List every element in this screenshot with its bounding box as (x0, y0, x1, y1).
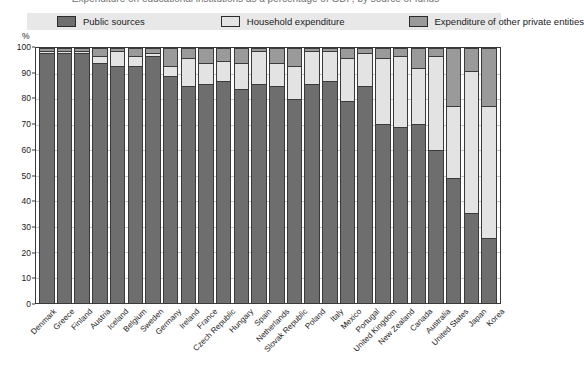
y-axis-tick-mark (32, 149, 35, 150)
legend-swatch-household-icon (221, 16, 240, 27)
bar-united-kingdom[interactable] (375, 48, 391, 303)
bar-segment-household (429, 57, 443, 151)
bar-group (36, 48, 500, 303)
bar-segment-household (482, 107, 496, 239)
bar-segment-public (182, 87, 196, 303)
x-axis-label-korea: Korea (485, 307, 506, 328)
bar-denmark[interactable] (39, 48, 55, 303)
bar-segment-other (217, 49, 231, 62)
bar-iceland[interactable] (110, 48, 126, 303)
y-axis-tick-mark (32, 252, 35, 253)
y-axis-tick-label: 70 (22, 119, 31, 129)
bar-poland[interactable] (304, 48, 320, 303)
bar-germany[interactable] (163, 48, 179, 303)
bar-segment-other (376, 49, 390, 59)
legend-item-household[interactable]: Household expenditure (221, 16, 345, 27)
bar-segment-household (305, 52, 319, 85)
bar-japan[interactable] (464, 48, 480, 303)
y-axis-tick-label: 0 (26, 299, 31, 309)
y-axis-tick-label: 50 (22, 171, 31, 181)
y-axis-tick-label: 20 (22, 248, 31, 258)
y-axis-tick-mark (32, 226, 35, 227)
chart-title-strip: Expenditure on educational institutions … (0, 0, 511, 11)
bar-segment-household (235, 64, 249, 89)
bar-hungary[interactable] (234, 48, 250, 303)
legend-swatch-other-icon (409, 16, 428, 27)
bar-ireland[interactable] (181, 48, 197, 303)
bar-segment-other (465, 49, 479, 72)
bar-segment-household (288, 67, 302, 100)
bar-segment-public (270, 87, 284, 303)
bar-segment-household (164, 67, 178, 77)
bar-italy[interactable] (322, 48, 338, 303)
y-axis-tick-mark (32, 98, 35, 99)
bar-segment-public (394, 128, 408, 303)
bar-segment-household (217, 62, 231, 82)
bar-korea[interactable] (481, 48, 497, 303)
bar-segment-public (288, 100, 302, 303)
bar-sweden[interactable] (145, 48, 161, 303)
x-axis-labels: DenmarkGreeceFinlandAustriaIcelandBelgiu… (35, 305, 501, 377)
bar-segment-public (40, 54, 54, 303)
legend-item-public[interactable]: Public sources (57, 16, 145, 27)
y-axis-tick-label: 30 (22, 222, 31, 232)
y-axis-tick-mark (32, 175, 35, 176)
bar-canada[interactable] (411, 48, 427, 303)
bar-czech-republic[interactable] (216, 48, 232, 303)
y-axis-tick-label: 40 (22, 196, 31, 206)
x-axis-label-japan: Japan (467, 307, 489, 329)
bar-mexico[interactable] (340, 48, 356, 303)
bar-united-states[interactable] (446, 48, 462, 303)
bar-segment-public (305, 85, 319, 303)
bar-netherlands[interactable] (269, 48, 285, 303)
bar-segment-public (217, 82, 231, 303)
plot-wrapper: 0102030405060708090100 (35, 47, 501, 304)
y-axis-tick-mark (32, 201, 35, 202)
bar-segment-other (412, 49, 426, 69)
bar-segment-other (182, 49, 196, 59)
bar-segment-household (111, 52, 125, 67)
y-axis-tick-mark (32, 72, 35, 73)
bar-segment-public (129, 67, 143, 303)
bar-segment-other (93, 49, 107, 57)
bar-spain[interactable] (251, 48, 267, 303)
y-axis-tick-mark (32, 278, 35, 279)
legend-label: Public sources (83, 16, 145, 27)
bar-segment-household (323, 52, 337, 82)
bar-segment-other (164, 49, 178, 67)
y-axis-unit-label: % (22, 31, 30, 41)
y-axis-tick-mark (32, 47, 35, 48)
bar-segment-other (199, 49, 213, 64)
bar-portugal[interactable] (357, 48, 373, 303)
bar-finland[interactable] (74, 48, 90, 303)
page-title: Expenditure on educational institutions … (0, 0, 511, 4)
bar-segment-public (412, 125, 426, 303)
bar-segment-household (465, 72, 479, 214)
y-axis-tick-mark (32, 124, 35, 125)
bar-australia[interactable] (428, 48, 444, 303)
bar-segment-public (429, 151, 443, 303)
bar-segment-other (447, 49, 461, 107)
bar-segment-other (288, 49, 302, 67)
bar-segment-household (182, 59, 196, 87)
bar-segment-public (146, 57, 160, 303)
bar-segment-household (394, 57, 408, 128)
bar-france[interactable] (198, 48, 214, 303)
chart-legend: Public sourcesHousehold expenditureExpen… (27, 13, 501, 30)
bar-segment-public (252, 85, 266, 303)
bar-belgium[interactable] (128, 48, 144, 303)
bar-segment-household (252, 52, 266, 85)
legend-item-other[interactable]: Expenditure of other private entities (409, 16, 584, 27)
legend-swatch-public-icon (57, 16, 76, 27)
bar-slovak-republic[interactable] (287, 48, 303, 303)
legend-label: Expenditure of other private entities (435, 16, 584, 27)
bar-segment-household (447, 107, 461, 178)
bar-segment-public (465, 214, 479, 303)
bar-segment-other (270, 49, 284, 64)
bar-segment-public (376, 125, 390, 303)
bar-greece[interactable] (57, 48, 73, 303)
bar-austria[interactable] (92, 48, 108, 303)
bar-new-zealand[interactable] (393, 48, 409, 303)
bar-segment-public (447, 179, 461, 303)
bar-segment-public (93, 64, 107, 303)
